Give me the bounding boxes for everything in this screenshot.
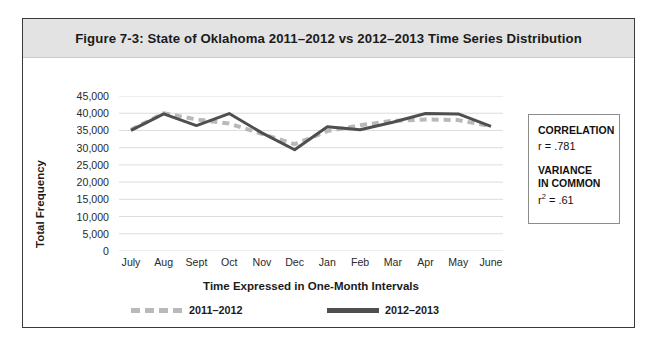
correlation-group: CORRELATION r = .781 [538, 124, 619, 153]
variance-heading-line1: VARIANCE [538, 164, 619, 177]
x-axis-tick-label: Sept [186, 256, 208, 268]
x-axis-tick-label: Aug [154, 256, 173, 268]
x-axis-tick-labels: JulyAugSeptOctNovDecJanFebMarAprMayJune [119, 256, 503, 272]
y-axis-tick-label: 15,000 [51, 193, 109, 205]
y-axis-tick-label: 20,000 [51, 176, 109, 188]
y-axis-tick-label: 25,000 [51, 159, 109, 171]
x-axis-tick-label: Mar [384, 256, 402, 268]
correlation-heading: CORRELATION [538, 124, 619, 137]
y-axis-title: Total Frequency [29, 144, 51, 264]
dashed-line-swatch-icon [131, 308, 183, 313]
y-axis-tick-label: 30,000 [51, 142, 109, 154]
legend-item-2012-2013: 2012–2013 [327, 304, 439, 316]
x-axis-tick-label: Jan [319, 256, 336, 268]
y-axis-tick-label: 0 [51, 245, 109, 257]
figure-title: Figure 7-3: State of Oklahoma 2011–2012 … [23, 19, 634, 58]
legend-label-2011-2012: 2011–2012 [189, 304, 242, 316]
legend-label-2012-2013: 2012–2013 [385, 304, 439, 316]
x-axis-title: Time Expressed in One-Month Intervals [119, 280, 503, 292]
x-axis-tick-label: Apr [417, 256, 434, 268]
variance-value: r2 = .61 [538, 192, 619, 207]
y-axis-tick-label: 35,000 [51, 124, 109, 136]
variance-group: VARIANCE IN COMMON r2 = .61 [538, 164, 619, 207]
correlation-value: r = .781 [538, 139, 619, 153]
x-axis-tick-label: May [448, 256, 468, 268]
variance-heading-line2: IN COMMON [538, 177, 619, 190]
chart-legend: 2011–2012 2012–2013 [119, 304, 503, 322]
y-axis-tick-label: 45,000 [51, 90, 109, 102]
statistics-box: CORRELATION r = .781 VARIANCE IN COMMON … [528, 114, 620, 224]
solid-line-swatch-icon [327, 308, 379, 313]
x-axis-tick-label: July [122, 256, 141, 268]
chart-plot-area [119, 96, 503, 251]
x-axis-tick-label: Dec [285, 256, 304, 268]
x-axis-tick-label: June [480, 256, 503, 268]
y-axis-tick-label: 40,000 [51, 107, 109, 119]
x-axis-tick-label: Feb [351, 256, 369, 268]
variance-value-rest: = .61 [546, 193, 574, 205]
y-axis-tick-label: 10,000 [51, 211, 109, 223]
y-axis-tick-label: 5,000 [51, 228, 109, 240]
x-axis-tick-label: Oct [221, 256, 237, 268]
figure-container: Figure 7-3: State of Oklahoma 2011–2012 … [22, 18, 635, 328]
line-chart-svg [119, 96, 503, 251]
x-axis-tick-label: Nov [252, 256, 271, 268]
y-axis-tick-labels: 45,00040,00035,00030,00025,00020,00015,0… [51, 96, 109, 251]
legend-item-2011-2012: 2011–2012 [131, 304, 242, 316]
chart-series-group [131, 113, 491, 150]
plot-region: Total Frequency 45,00040,00035,00030,000… [23, 58, 634, 329]
